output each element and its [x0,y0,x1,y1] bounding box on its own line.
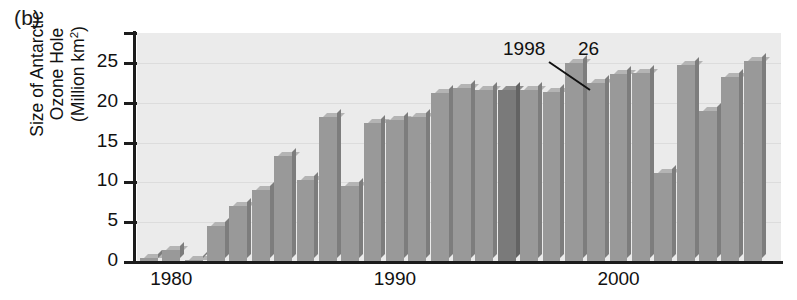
bar-top-face [323,113,345,117]
bar-side-face [337,109,341,258]
bar-side-face [605,75,609,258]
bar-side-face [314,172,318,258]
y-axis-tick-label: 10 [97,169,118,191]
bar-side-face [381,115,385,258]
y-axis-tick [124,181,137,184]
bar-side-face [516,82,520,258]
bar-side-face [739,69,743,258]
bar-1998 [565,63,583,262]
bar-top-face [748,57,770,61]
y-axis-tick [124,221,137,224]
figure-panel-b: (b) Size of Antarctic Ozone Hole (Millio… [0,0,797,300]
bar-1989 [364,123,382,262]
bar-2001 [632,73,650,262]
bar-side-face [493,82,497,258]
callout-26: 26 [578,38,599,60]
y-axis-tick-label: 25 [97,50,118,72]
panel-letter: (b) [14,6,40,30]
bar-1992 [431,93,449,262]
y-axis-tick-label: 20 [97,90,118,112]
bar-side-face [247,198,251,258]
bar-1997 [543,92,561,262]
bar-2004 [699,111,717,262]
bar-1982 [207,226,225,262]
bar-1994 [475,90,493,262]
bar-top-face [166,246,188,250]
bar-side-face [225,218,229,258]
bar-1990 [386,120,404,262]
y-axis-tick-label: 0 [107,249,118,271]
plot-area [137,33,781,262]
bar-side-face [538,82,542,258]
bar-1996 [520,90,538,262]
bar-top-face [681,61,703,65]
bar-2005 [721,77,739,262]
callout-1998: 1998 [503,38,545,60]
bar-1988 [341,186,359,262]
bar-top-face [457,84,479,88]
x-axis-tick-label: 1980 [150,268,192,290]
y-axis-tick-label: 15 [97,130,118,152]
bar-2002 [654,173,672,262]
bar-side-face [359,178,363,258]
x-axis-tick-label: 2000 [597,268,639,290]
bar-2006 [744,61,762,262]
bar-top-face [278,152,300,156]
bar-side-face [292,148,296,258]
bar-1985 [274,156,292,262]
bar-side-face [471,80,475,258]
y-axis-tick-labels: 0510152025 [60,0,118,300]
bar-side-face [560,84,564,258]
bar-side-face [426,109,430,258]
bar-top-face [636,69,658,73]
bar-1986 [297,180,315,262]
y-axis-tick-top [124,32,137,35]
bar-1991 [408,117,426,262]
bar-side-face [449,85,453,258]
y-axis-tick [124,261,137,264]
bar-side-face [762,53,766,258]
bar-side-face [270,182,274,258]
bar-side-face [717,103,721,258]
bar-1995 [498,90,516,262]
bar-1984 [252,190,270,262]
bar-2000 [610,74,628,262]
x-axis-line [133,261,783,264]
bar-1983 [229,206,247,262]
y-axis-tick [124,142,137,145]
bar-side-face [672,165,676,258]
y-axis-tick [124,102,137,105]
bar-1987 [319,117,337,262]
bar-side-face [583,55,587,258]
bar-2003 [677,65,695,262]
y-axis-tick [124,62,137,65]
y-axis-line [133,31,136,264]
bar-top-face [524,86,546,90]
x-axis-tick-label: 1990 [374,268,416,290]
bar-1999 [587,83,605,262]
bar-side-face [627,66,631,258]
bar-side-face [695,57,699,258]
bar-1993 [453,88,471,262]
bar-side-face [404,112,408,258]
y-axis-title-line-1: Size of Antarctic [26,11,46,136]
bar-side-face [180,242,184,258]
y-axis-tick-label: 5 [107,209,118,231]
bar-side-face [650,65,654,258]
